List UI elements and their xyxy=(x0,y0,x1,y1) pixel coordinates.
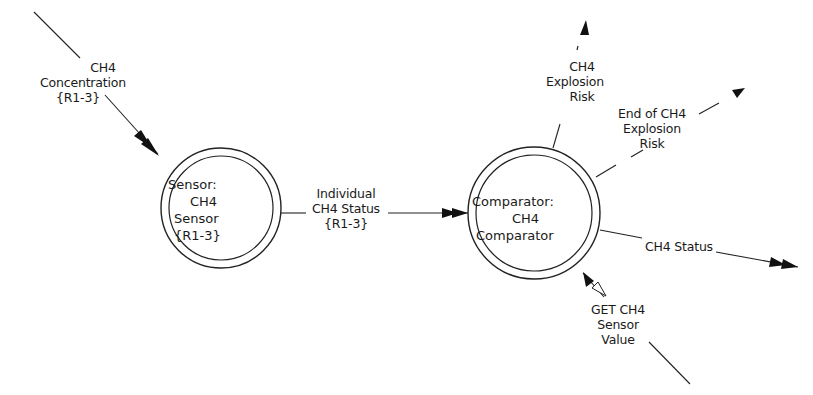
label-line: Value xyxy=(580,332,656,347)
flow-label-end-of-ch4-explosion-risk: End of CH4 Explosion Risk xyxy=(602,106,702,151)
process-sensor-label: Sensor: CH4 Sensor {R1-3} xyxy=(168,176,221,244)
label-line: CH4 Status xyxy=(638,239,720,254)
label-line: GET CH4 xyxy=(580,302,656,317)
flow-label-get-ch4-sensor-value: GET CH4 Sensor Value xyxy=(580,302,656,347)
flow-label-ch4-concentration: CH4 Concentration {R1-3} xyxy=(26,60,140,105)
flow-label-ch4-explosion-risk: CH4 Explosion Risk xyxy=(535,59,615,104)
process-comparator-label: Comparator: CH4 Comparator xyxy=(472,193,554,244)
label-line: {R1-3} xyxy=(296,216,396,231)
label-line: {R1-3} xyxy=(26,90,140,105)
label-line: Sensor xyxy=(168,210,221,227)
label-line: Sensor: xyxy=(168,176,221,193)
label-line: Comparator: xyxy=(472,193,554,210)
arrowhead-outline-icon xyxy=(592,282,606,296)
label-line: Concentration xyxy=(26,75,140,90)
label-line: Individual xyxy=(296,186,396,201)
label-line: CH4 xyxy=(472,210,554,227)
label-line: Explosion xyxy=(535,74,615,89)
arrowhead-icon xyxy=(732,88,745,98)
label-line: {R1-3} xyxy=(168,227,221,244)
label-line: Explosion xyxy=(602,121,702,136)
label-line: CH4 Status xyxy=(296,201,396,216)
arrowhead-icon xyxy=(580,20,589,35)
label-line: CH4 xyxy=(168,193,221,210)
label-line: CH4 xyxy=(535,59,615,74)
flow-label-individual-ch4-status: Individual CH4 Status {R1-3} xyxy=(296,186,396,231)
label-line: Comparator xyxy=(472,227,554,244)
label-line: End of CH4 xyxy=(602,106,702,121)
label-line: Sensor xyxy=(580,317,656,332)
arrowhead-icon xyxy=(583,272,594,287)
label-line: Risk xyxy=(602,136,702,151)
label-line: CH4 xyxy=(26,60,140,75)
label-line: Risk xyxy=(535,89,615,104)
flow-label-ch4-status: CH4 Status xyxy=(638,239,720,254)
